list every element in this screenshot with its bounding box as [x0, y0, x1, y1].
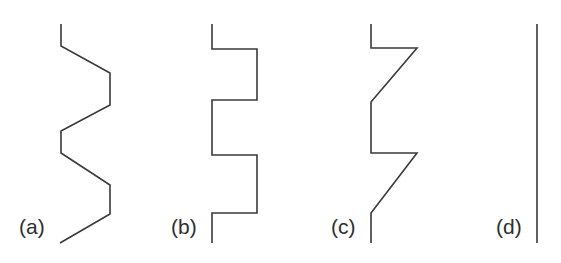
figure-panel: (a) (b) (c) (d) [0, 0, 561, 263]
path-a [60, 24, 110, 243]
panel-label-c: (c) [331, 216, 356, 237]
panel-label-a: (a) [19, 216, 45, 237]
path-b [212, 24, 257, 243]
panel-label-d: (d) [496, 216, 522, 237]
path-c [371, 24, 417, 243]
line-figures-svg [0, 0, 561, 263]
panel-label-b: (b) [171, 216, 197, 237]
